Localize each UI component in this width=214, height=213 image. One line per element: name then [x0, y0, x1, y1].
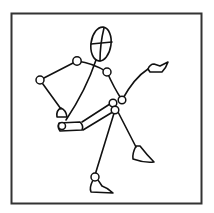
right-hand	[148, 62, 168, 72]
right-leg	[117, 110, 136, 147]
right-arm	[122, 69, 148, 100]
right-foot	[133, 146, 154, 162]
spine	[66, 60, 96, 120]
shoulder-joint-left	[73, 57, 81, 65]
head	[89, 26, 114, 62]
elbow-joint-left	[36, 76, 44, 84]
left-upper-arm	[40, 61, 77, 80]
hip-joint-lower	[111, 106, 119, 114]
shoulder-joint-right	[103, 68, 111, 76]
stick-figure-illustration	[0, 0, 214, 213]
figure-canvas: Posed stick figure mannequin drawing	[0, 0, 214, 213]
torso-right	[107, 72, 122, 100]
elbow-joint-right	[118, 96, 126, 104]
left-hand	[57, 108, 67, 117]
ankle-joint-left	[91, 173, 99, 181]
left-leg	[95, 110, 115, 175]
knee-joint-front	[59, 123, 66, 130]
left-forearm	[40, 80, 61, 109]
